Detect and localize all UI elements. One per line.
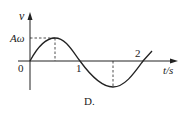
x-axis-label: t/s [163,64,173,76]
tick-label-2: 2 [135,47,141,59]
y-axis-label: v [19,9,25,23]
velocity-curve [30,38,152,87]
tick-label-1: 1 [76,62,82,74]
x-axis-arrow-icon [170,59,178,64]
peak-value-label: Aω [9,32,25,44]
origin-label: 0 [18,62,24,74]
y-axis-arrow-icon [28,12,33,20]
velocity-time-graph: v Aω 0 1 2 t/s D. [0,0,188,120]
figure-caption: D. [84,95,95,107]
